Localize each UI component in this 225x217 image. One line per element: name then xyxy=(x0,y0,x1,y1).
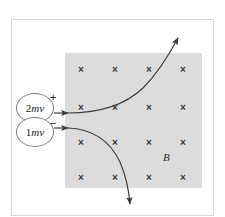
magnetic-field-region xyxy=(65,53,202,188)
physics-figure: ×××××××××××××××× B 2mv + 1mv − xyxy=(0,0,225,217)
charge-sign-positive: + xyxy=(50,92,56,103)
particle-positive-symbol: mv xyxy=(31,102,44,114)
particle-positive-label: 2mv xyxy=(26,102,44,114)
particle-negative-symbol: mv xyxy=(31,126,44,138)
field-label-b: B xyxy=(163,151,170,163)
charge-sign-negative: − xyxy=(50,118,56,129)
particle-negative: 1mv xyxy=(16,117,54,147)
particle-negative-label: 1mv xyxy=(26,126,44,138)
